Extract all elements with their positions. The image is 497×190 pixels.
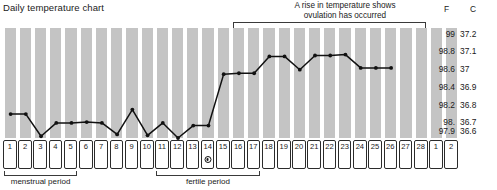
temperature-data-point [115, 133, 119, 137]
temperature-data-point [298, 68, 302, 72]
day-cell[interactable]: 5 [64, 140, 78, 169]
day-cell[interactable]: 19 [277, 140, 291, 169]
chart-plot-area [0, 28, 430, 138]
temperature-data-point [374, 66, 378, 70]
day-cell[interactable]: 25 [368, 140, 382, 169]
day-cell[interactable]: 17 [247, 140, 261, 169]
day-cell[interactable]: 8 [110, 140, 124, 169]
temperature-data-point [313, 54, 317, 58]
temperature-series [0, 28, 430, 138]
day-number: 26 [385, 142, 397, 151]
day-number: 5 [65, 142, 77, 151]
temperature-data-point [359, 66, 363, 70]
temperature-data-point [344, 53, 348, 57]
temperature-data-point [283, 54, 287, 58]
scale-value-fahrenheit: 98.6 [439, 64, 455, 74]
day-cell[interactable]: 22 [323, 140, 337, 169]
day-cell[interactable]: 7 [94, 140, 108, 169]
menstrual-period-bracket [4, 171, 77, 176]
day-number: 1 [430, 142, 442, 151]
day-cell[interactable]: 23 [338, 140, 352, 169]
page-title: Daily temperature chart [3, 2, 104, 13]
scale-value-fahrenheit: 98.4 [439, 82, 455, 92]
scale-value-celsius: 37.2 [460, 29, 476, 39]
day-number: 12 [171, 142, 183, 151]
day-number: 18 [263, 142, 275, 151]
day-cell[interactable]: 1 [429, 140, 443, 169]
temperature-line [11, 55, 392, 138]
scale-value-celsius: 36.9 [460, 82, 476, 92]
temperature-data-point [328, 54, 332, 58]
temperature-data-point [39, 134, 43, 138]
day-number: 10 [141, 142, 153, 151]
day-number: 13 [187, 142, 199, 151]
day-number: 3 [34, 142, 46, 151]
day-cell[interactable]: 27 [399, 140, 413, 169]
day-cell[interactable]: 2 [444, 140, 458, 169]
day-number: 8 [111, 142, 123, 151]
day-number: 25 [369, 142, 381, 151]
day-number: 9 [126, 142, 138, 151]
day-cell[interactable]: 12 [170, 140, 184, 169]
scale-value-fahrenheit: 97.9 [439, 126, 455, 136]
day-cells: 1234567891011121314151617181920212223242… [0, 140, 430, 170]
ovulation-annotation: A rise in temperature shows ovulation ha… [245, 1, 445, 21]
day-cell[interactable]: 24 [353, 140, 367, 169]
day-number: 2 [445, 142, 457, 151]
scale-row: 98.236.8 [432, 100, 497, 111]
day-number: 15 [217, 142, 229, 151]
day-cell[interactable]: 26 [384, 140, 398, 169]
fertile-period-bracket [156, 171, 260, 176]
scale-value-celsius: 37.1 [460, 46, 476, 56]
scale-value-celsius: 37 [460, 64, 469, 74]
day-number: 19 [278, 142, 290, 151]
temperature-data-point [9, 112, 13, 116]
day-cell[interactable]: 11 [155, 140, 169, 169]
day-cell[interactable]: 28 [414, 140, 428, 169]
temperature-data-point [389, 66, 393, 70]
day-number: 27 [400, 142, 412, 151]
day-cell[interactable]: 13 [186, 140, 200, 169]
temperature-data-point [237, 71, 241, 75]
day-cell[interactable]: 14 [201, 140, 215, 169]
ovulation-marker-icon [204, 156, 211, 163]
day-number: 17 [248, 142, 260, 151]
scale-value-fahrenheit: 98.8 [439, 46, 455, 56]
day-cell[interactable]: 4 [49, 140, 63, 169]
temperature-data-point [191, 124, 195, 128]
day-cell[interactable]: 10 [140, 140, 154, 169]
scale-header-celsius: C [470, 4, 476, 14]
scale-value-celsius: 36.6 [460, 126, 476, 136]
day-cell[interactable]: 20 [292, 140, 306, 169]
day-cell[interactable]: 18 [262, 140, 276, 169]
day-cell[interactable]: 2 [18, 140, 32, 169]
day-cell[interactable]: 1 [3, 140, 17, 169]
day-cell[interactable]: 9 [125, 140, 139, 169]
temperature-data-point [252, 71, 256, 75]
ovulation-annotation-line1: A rise in temperature shows [245, 1, 445, 11]
day-number: 21 [308, 142, 320, 151]
temperature-data-point [130, 108, 134, 112]
daily-temperature-chart: Daily temperature chart A rise in temper… [0, 0, 497, 190]
day-number: 14 [202, 142, 214, 151]
scale-row: 98.837.1 [432, 46, 497, 57]
temperature-data-point [100, 121, 104, 125]
day-cell[interactable]: 3 [33, 140, 47, 169]
day-number: 11 [156, 142, 168, 151]
day-cell[interactable]: 15 [216, 140, 230, 169]
day-number: 28 [415, 142, 427, 151]
scale-value-fahrenheit: 99 [446, 29, 455, 39]
temperature-data-point [54, 121, 58, 125]
scale-row: 9937.2 [432, 29, 497, 40]
scale-value-fahrenheit: 98.2 [439, 100, 455, 110]
temperature-data-point [161, 121, 165, 125]
day-cell[interactable]: 16 [231, 140, 245, 169]
day-cell[interactable]: 6 [79, 140, 93, 169]
day-number: 1 [4, 142, 16, 151]
day-number: 4 [50, 142, 62, 151]
temperature-data-point [267, 54, 271, 58]
day-cell[interactable]: 21 [307, 140, 321, 169]
day-number: 2 [19, 142, 31, 151]
day-number: 16 [232, 142, 244, 151]
scale-row: 98.436.9 [432, 82, 497, 93]
